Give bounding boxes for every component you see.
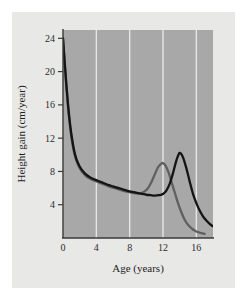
x-axis-title: Age (years) [112,262,164,275]
x-tick-label-0: 0 [61,242,66,253]
y-axis-title: Height gain (cm/year) [15,85,28,182]
x-tick-label-4: 4 [94,242,99,253]
plot-area-background [63,30,213,238]
y-tick-label-4: 4 [50,199,55,210]
x-tick-label-8: 8 [127,242,132,253]
y-axis-ticks: 4812162024 [45,33,63,210]
y-tick-label-24: 24 [45,33,55,44]
x-tick-label-12: 12 [158,242,168,253]
height-gain-chart: 4812162024 0481216 Age (years) Height ga… [0,0,247,304]
y-tick-label-20: 20 [45,66,55,77]
figure-root: 4812162024 0481216 Age (years) Height ga… [0,0,247,304]
y-tick-label-12: 12 [45,133,55,144]
y-tick-label-16: 16 [45,99,55,110]
y-tick-label-8: 8 [50,166,55,177]
x-axis-ticks: 0481216 [61,242,202,253]
x-tick-label-16: 16 [191,242,201,253]
